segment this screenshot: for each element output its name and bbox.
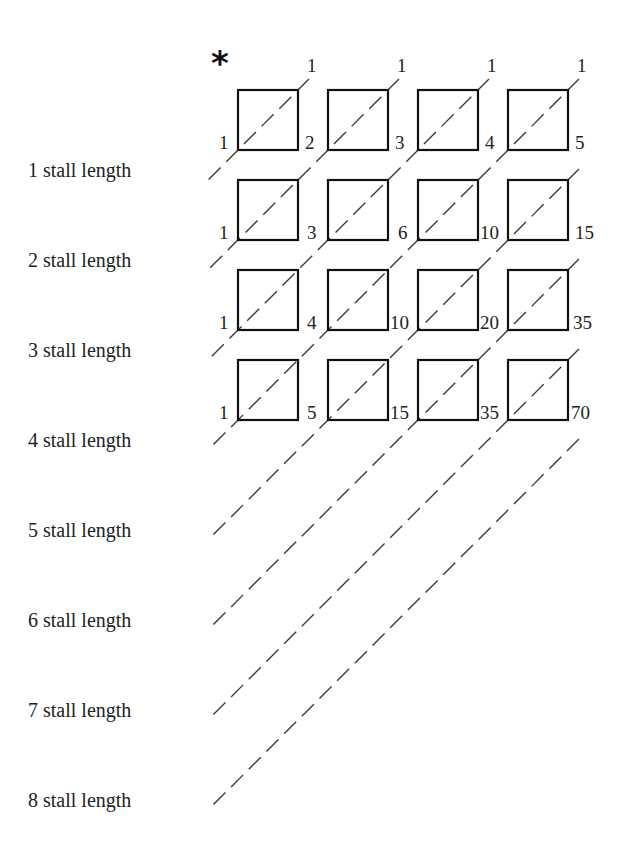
asterisk-marker: * [211,46,229,80]
top-label: 1 [577,56,587,75]
cell-value: 20 [480,313,499,332]
cell-value: 35 [480,403,499,422]
top-label: 1 [397,56,407,75]
cell-value: 70 [571,403,590,422]
dashed-diagonal-line [208,79,399,270]
cell-value: 6 [398,223,408,242]
row-label-2: 2 stall length [28,250,131,270]
cell-value: 4 [485,133,495,152]
left-value: 1 [219,313,229,332]
row-label-4: 4 stall length [28,430,131,450]
cell-value: 2 [305,133,315,152]
cell-value: 5 [307,403,317,422]
row-label-6: 6 stall length [28,610,131,630]
dashed-diagonal-line [208,169,579,540]
diagram-graphics [0,0,628,854]
dashed-diagonal-line [208,79,309,180]
left-value: 1 [219,403,229,422]
cell-value: 15 [575,223,594,242]
cell-value: 3 [395,133,405,152]
left-value: 1 [219,133,229,152]
diagonal-dashed-lines [208,79,579,810]
row-label-1: 1 stall length [28,160,131,180]
left-value: 1 [219,223,229,242]
row-label-8: 8 stall length [28,790,131,810]
cell-value: 10 [480,223,499,242]
cell-value: 3 [307,223,317,242]
top-label: 1 [307,56,317,75]
cell-value: 5 [575,133,585,152]
dashed-diagonal-line [208,79,489,360]
row-label-3: 3 stall length [28,340,131,360]
dashed-diagonal-line [208,439,579,810]
top-label: 1 [487,56,497,75]
row-label-5: 5 stall length [28,520,131,540]
cell-value: 10 [390,313,409,332]
cell-value: 35 [573,313,592,332]
cell-value: 15 [390,403,409,422]
cell-value: 4 [307,313,317,332]
row-label-7: 7 stall length [28,700,131,720]
dashed-diagonal-line [208,79,579,450]
diagram-canvas: * 1 1 1 1 1 stall length 2 stall length … [0,0,628,854]
